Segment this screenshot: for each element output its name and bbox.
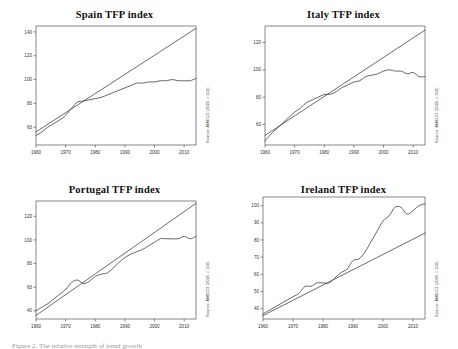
svg-text:100: 100: [251, 203, 259, 208]
svg-text:1960: 1960: [31, 150, 42, 155]
svg-text:1970: 1970: [290, 150, 301, 155]
panel-spain: Spain TFP index 608010012014019601970198…: [0, 0, 229, 175]
svg-text:1970: 1970: [288, 324, 299, 329]
svg-text:60: 60: [254, 272, 260, 277]
svg-text:70: 70: [254, 255, 260, 260]
svg-text:60: 60: [256, 122, 262, 127]
tfp-index-figure: Spain TFP index 608010012014019601970198…: [0, 0, 458, 349]
svg-text:1980: 1980: [318, 324, 329, 329]
svg-text:120: 120: [24, 214, 32, 219]
svg-text:120: 120: [24, 53, 32, 58]
panel-portugal: Portugal TFP index 406080100120196019701…: [0, 175, 229, 349]
svg-text:60: 60: [27, 285, 33, 290]
svg-text:80: 80: [27, 261, 33, 266]
svg-text:2000: 2000: [149, 324, 160, 329]
svg-text:1990: 1990: [120, 324, 131, 329]
figure-caption: Figure 2. The relative strength of trend…: [12, 342, 142, 349]
svg-text:40: 40: [254, 306, 260, 311]
chart-italy: 6080100120196019701980199020002010: [229, 0, 458, 175]
svg-text:2010: 2010: [408, 150, 419, 155]
svg-text:2000: 2000: [149, 150, 160, 155]
svg-text:140: 140: [24, 30, 32, 35]
svg-text:1980: 1980: [90, 150, 101, 155]
svg-text:100: 100: [253, 67, 261, 72]
svg-text:1990: 1990: [348, 324, 359, 329]
chart-portugal: 406080100120196019701980199020002010: [0, 175, 229, 349]
svg-text:40: 40: [27, 308, 33, 313]
source-label-italy: Source: AMECO (2005 = 100): [434, 87, 439, 143]
svg-text:1980: 1980: [90, 324, 101, 329]
svg-text:1990: 1990: [120, 150, 131, 155]
svg-text:2010: 2010: [179, 150, 190, 155]
svg-text:1970: 1970: [61, 150, 72, 155]
svg-text:60: 60: [27, 125, 33, 130]
svg-text:1970: 1970: [61, 324, 72, 329]
svg-text:50: 50: [254, 289, 260, 294]
svg-text:1960: 1960: [31, 324, 42, 329]
svg-text:1990: 1990: [349, 150, 360, 155]
svg-text:80: 80: [27, 101, 33, 106]
svg-text:100: 100: [24, 77, 32, 82]
svg-text:80: 80: [254, 238, 260, 243]
svg-text:1960: 1960: [258, 324, 269, 329]
svg-text:100: 100: [24, 238, 32, 243]
svg-text:2010: 2010: [179, 324, 190, 329]
svg-text:1960: 1960: [260, 150, 271, 155]
panel-italy: Italy TFP index 608010012019601970198019…: [229, 0, 458, 175]
source-label-spain: Source: AMECO (2005 = 100): [205, 87, 210, 143]
svg-text:90: 90: [254, 220, 260, 225]
svg-text:2000: 2000: [378, 150, 389, 155]
svg-text:80: 80: [256, 95, 262, 100]
chart-spain: 6080100120140196019701980199020002010: [0, 0, 229, 175]
source-label-ireland: Source: AMECO (2005 = 100): [434, 261, 439, 317]
svg-text:2000: 2000: [378, 324, 389, 329]
svg-text:2010: 2010: [408, 324, 419, 329]
source-label-portugal: Source: AMECO (2005 = 100): [205, 261, 210, 317]
svg-text:120: 120: [253, 40, 261, 45]
panel-ireland: Ireland TFP index 4050607080901001960197…: [229, 175, 458, 349]
svg-text:1980: 1980: [319, 150, 330, 155]
chart-ireland: 405060708090100196019701980199020002010: [229, 175, 458, 349]
